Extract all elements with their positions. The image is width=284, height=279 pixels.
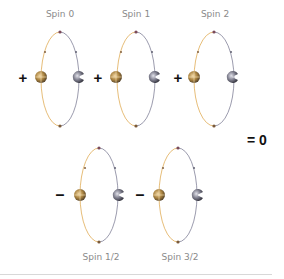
feynman-loop-diagrams: [0, 0, 284, 279]
loop-spin-1: [110, 30, 160, 127]
sphere-left-icon: [153, 189, 165, 201]
sphere-left-icon: [110, 71, 122, 83]
divider: [0, 274, 272, 275]
loop-spin-0: [35, 30, 84, 127]
loop-spin-1-2: [74, 146, 124, 243]
loop-spin-3-2: [153, 146, 203, 243]
plus-sign: +: [19, 70, 28, 85]
sphere-left-icon: [35, 71, 47, 83]
plus-sign: +: [174, 70, 183, 85]
loop-spin-2: [188, 30, 238, 127]
sphere-right-icon: [227, 71, 238, 83]
label-spin-0: Spin 0: [46, 9, 74, 19]
label-spin-2: Spin 2: [201, 9, 229, 19]
label-spin-1-2: Spin 1/2: [83, 252, 120, 262]
plus-sign: +: [94, 70, 103, 85]
label-spin-3-2: Spin 3/2: [162, 252, 199, 262]
sphere-right-icon: [149, 71, 160, 83]
equals-zero: = 0: [247, 132, 267, 148]
minus-sign: –: [56, 187, 65, 203]
minus-sign: –: [136, 187, 145, 203]
sphere-right-icon: [73, 71, 84, 83]
sphere-left-icon: [188, 71, 200, 83]
label-spin-1: Spin 1: [122, 9, 150, 19]
sphere-left-icon: [74, 189, 86, 201]
